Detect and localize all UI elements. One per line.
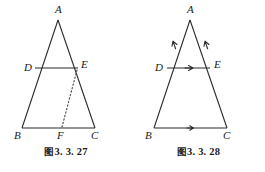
figure-panel-3-3-28: A B C D E 图3. 3. 28 — [132, 0, 265, 172]
vertex-label-D: D — [154, 61, 163, 73]
arrow-on-AB-icon — [171, 40, 178, 49]
vertex-label-C: C — [91, 129, 99, 141]
vertex-label-E: E — [80, 58, 88, 70]
vertex-label-A: A — [54, 3, 62, 15]
figure-caption-3-3-27: 图3. 3. 27 — [0, 144, 132, 158]
vertex-label-B: B — [14, 129, 21, 141]
side-AB — [22, 20, 58, 128]
caption-number-label: 3. 3. 28 — [187, 146, 220, 157]
vertex-label-D: D — [23, 61, 32, 73]
vertex-label-F: F — [56, 129, 64, 141]
arrow-on-DE-icon — [185, 66, 193, 71]
vertex-label-B: B — [145, 129, 152, 141]
arrow-on-AC-icon — [203, 40, 211, 49]
arrow-on-BC-icon — [187, 126, 193, 130]
vertex-label-A: A — [186, 3, 194, 15]
figure-drawing-3-3-27: A B C D E F — [0, 0, 132, 144]
figure-caption-3-3-28: 图3. 3. 28 — [132, 144, 265, 158]
figure-panel-3-3-27: A B C D E F 图3. 3. 27 — [0, 0, 132, 172]
vertex-label-E: E — [213, 58, 221, 70]
caption-cjk-label: 图 — [44, 146, 54, 157]
caption-cjk-label: 图 — [177, 146, 187, 157]
figure-drawing-3-3-28: A B C D E — [132, 0, 265, 144]
figure-sheet: A B C D E F 图3. 3. 27 — [0, 0, 265, 172]
side-AB — [154, 20, 190, 128]
side-AC — [190, 20, 227, 128]
caption-number-label: 3. 3. 27 — [55, 146, 88, 157]
segment-EF-dotted — [62, 70, 77, 127]
vertex-label-C: C — [223, 129, 231, 141]
